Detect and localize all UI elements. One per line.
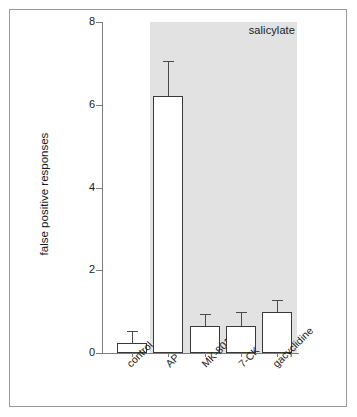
y-tick-label: 6 <box>65 98 95 110</box>
error-bar-7-ck <box>241 312 242 326</box>
y-axis-title: false positive responses <box>38 114 50 274</box>
error-bar-gacyclidine <box>277 300 278 312</box>
y-tick-mark <box>96 22 102 23</box>
salicylate-region-label: salicylate <box>249 24 295 36</box>
error-bar-cap-mk-801 <box>200 314 211 315</box>
error-bar-cap-control <box>127 331 138 332</box>
error-bar-cap-7-ck <box>236 312 247 313</box>
y-tick-label: 2 <box>65 263 95 275</box>
y-tick-mark <box>96 105 102 106</box>
y-tick-label: 8 <box>65 15 95 27</box>
y-tick-label: 4 <box>65 181 95 193</box>
error-bar-ap <box>168 61 169 96</box>
y-tick-mark <box>96 353 102 354</box>
y-axis-line <box>102 22 103 353</box>
y-tick-mark <box>96 188 102 189</box>
error-bar-cap-gacyclidine <box>272 300 283 301</box>
error-bar-control <box>132 331 133 343</box>
error-bar-cap-ap <box>163 61 174 62</box>
plot-area: salicylate 0 2 4 6 8 false positive resp… <box>0 0 357 417</box>
error-bar-mk-801 <box>205 314 206 326</box>
bar-ap <box>153 96 183 353</box>
figure-container: salicylate 0 2 4 6 8 false positive resp… <box>0 0 357 417</box>
y-tick-mark <box>96 270 102 271</box>
y-tick-label: 0 <box>65 346 95 358</box>
